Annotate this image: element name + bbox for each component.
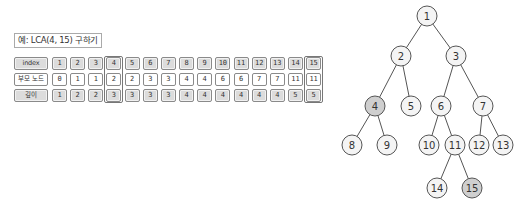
tree-node-8: 8	[342, 135, 362, 155]
svg-text:3: 3	[453, 51, 459, 62]
svg-text:9: 9	[384, 140, 390, 151]
tree-node-5: 5	[401, 96, 421, 116]
svg-text:12: 12	[473, 140, 486, 151]
tree-node-11: 11	[445, 135, 465, 155]
svg-text:2: 2	[398, 51, 404, 62]
tree-node-3: 3	[446, 46, 466, 66]
tree-node-10: 10	[419, 135, 439, 155]
svg-text:6: 6	[438, 101, 444, 112]
svg-text:10: 10	[423, 140, 436, 151]
tree-node-13: 13	[493, 135, 513, 155]
svg-text:5: 5	[408, 101, 414, 112]
svg-text:13: 13	[497, 140, 510, 151]
svg-text:1: 1	[424, 11, 430, 22]
svg-text:15: 15	[466, 183, 479, 194]
svg-text:14: 14	[431, 183, 444, 194]
tree-node-12: 12	[469, 135, 489, 155]
tree-node-4: 4	[365, 96, 385, 116]
tree-node-6: 6	[431, 96, 451, 116]
tree-node-15: 15	[462, 178, 482, 198]
svg-text:7: 7	[480, 101, 486, 112]
svg-text:4: 4	[372, 101, 378, 112]
tree-node-1: 1	[417, 6, 437, 26]
svg-text:8: 8	[349, 140, 355, 151]
tree-node-9: 9	[377, 135, 397, 155]
svg-text:11: 11	[449, 140, 462, 151]
tree-node-2: 2	[391, 46, 411, 66]
tree-node-7: 7	[473, 96, 493, 116]
tree-node-14: 14	[427, 178, 447, 198]
tree-diagram: 123456789101112131415	[0, 0, 530, 209]
